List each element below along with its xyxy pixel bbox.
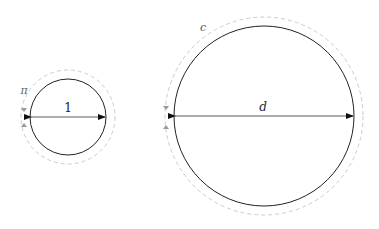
arrow-up-icon — [163, 125, 169, 129]
general-circle: d c — [163, 17, 363, 215]
diameter-label: d — [259, 100, 267, 114]
arrow-down-icon — [163, 106, 169, 110]
diameter-label: 1 — [64, 101, 72, 115]
circumference-label: c — [200, 21, 206, 34]
circumference-label: π — [19, 84, 28, 97]
pi-diagram: 1 π d c — [0, 0, 379, 229]
unit-circle: 1 π — [19, 70, 115, 164]
